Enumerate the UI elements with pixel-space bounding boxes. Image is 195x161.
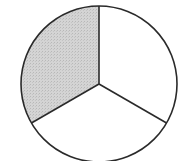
shaded-sector <box>21 6 99 123</box>
divider-line-lower-right <box>99 84 167 123</box>
fraction-circle-diagram <box>0 0 195 161</box>
